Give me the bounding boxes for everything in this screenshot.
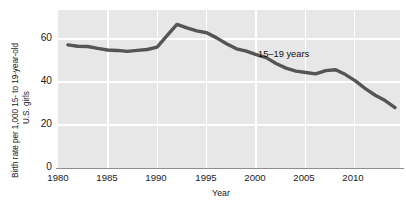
x-tick-label-1995: 1995 xyxy=(184,172,228,183)
x-tick-label-1990: 1990 xyxy=(134,172,178,183)
x-axis-line xyxy=(56,168,404,169)
y-tick-label-40: 40 xyxy=(26,75,52,86)
x-axis-title: Year xyxy=(0,188,406,198)
x-tick-label-1985: 1985 xyxy=(85,172,129,183)
x-axis-title-text: Year xyxy=(212,188,230,198)
y-tick-label-60: 60 xyxy=(26,32,52,43)
plot-area: 15–19 years xyxy=(58,10,400,168)
series-line-15-19-years xyxy=(58,10,400,168)
series-annotation-label: 15–19 years xyxy=(258,49,309,59)
y-axis-title-line-1: Birth rate per 1,000 15- to 19-year-old xyxy=(11,43,20,178)
chart-figure: Birth rate per 1,000 15- to 19-year-old … xyxy=(0,0,406,212)
y-tick-label-20: 20 xyxy=(26,118,52,129)
x-tick-label-2010: 2010 xyxy=(331,172,375,183)
x-tick-label-2005: 2005 xyxy=(282,172,326,183)
x-tick-label-2000: 2000 xyxy=(233,172,277,183)
x-tick-label-1980: 1980 xyxy=(36,172,80,183)
y-tick-label-0: 0 xyxy=(26,161,52,172)
